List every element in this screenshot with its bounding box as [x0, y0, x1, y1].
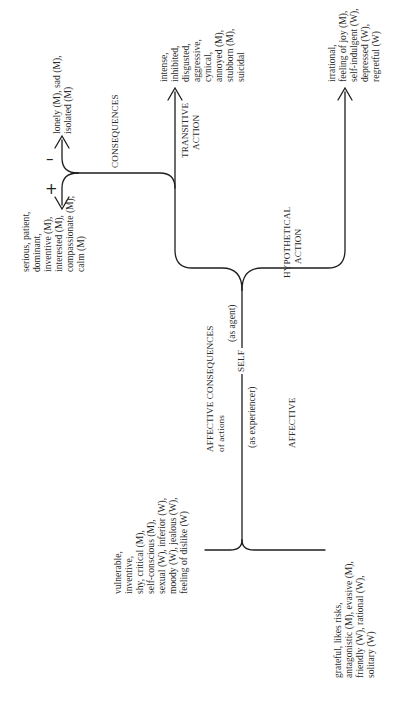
label-text: ACTION: [191, 103, 202, 158]
trait-line: moody (W), jealous (W),: [167, 497, 178, 594]
label-text: ACTION: [293, 207, 304, 278]
trait-line: regretful (W): [370, 8, 381, 82]
trait-line: self-conscious (M),: [145, 497, 156, 594]
trait-line: antagonistic (M), evasive (M),: [343, 561, 354, 678]
trait-line: grateful, likes risks,: [332, 561, 343, 678]
trait-line: annoyed (M),: [213, 29, 224, 82]
negative-sign: –: [46, 150, 54, 168]
trait-line: self-indulgent (W),: [348, 8, 359, 82]
trait-line: inhibited,: [169, 29, 180, 82]
trait-line: solitary (W): [365, 561, 376, 678]
hypothetical-traits: irrational, feeling of joy (M), self-ind…: [326, 8, 381, 82]
hypothetical-action-label: HYPOTHETICAL ACTION: [282, 207, 304, 278]
trait-line: calm (M): [75, 196, 86, 272]
label-text: (as agent): [226, 304, 237, 342]
trait-line: depressed (W),: [359, 8, 370, 82]
trait-line: lonely (M), sad (M),: [51, 55, 62, 134]
transitive-action-label: TRANSITIVE ACTION: [180, 103, 202, 158]
self-root-label: SELF: [236, 348, 247, 374]
negative-traits: lonely (M), sad (M), isolated (M): [51, 55, 73, 134]
branch-affective-consequences: [205, 540, 242, 550]
trait-line: feeling of joy (M),: [337, 8, 348, 82]
label-text: (as experiencer): [246, 386, 257, 448]
as-agent-label: (as agent): [226, 304, 237, 342]
affective-traits: grateful, likes risks, antagonistic (M),…: [332, 561, 376, 678]
positive-traits: serious, patient, dominant, inventive (M…: [20, 196, 86, 272]
trait-line: serious, patient,: [20, 196, 31, 272]
consequences-label: CONSEQUENCES: [110, 94, 121, 168]
affective-consequences-label: AFFECTIVE CONSEQUENCES of actions: [205, 326, 227, 453]
branch-affective: [242, 540, 325, 550]
trait-line: shy, critical (M),: [134, 497, 145, 594]
branch-consequences: [78, 173, 175, 188]
label-text: of actions: [216, 326, 227, 453]
trait-line: sexual (W), inferior (W),: [156, 497, 167, 594]
trait-line: intense,: [158, 29, 169, 82]
label-text: SELF: [236, 350, 247, 372]
transitive-traits: intense, inhibited, disgusted, aggressiv…: [158, 29, 246, 82]
label-text: CONSEQUENCES: [110, 94, 121, 168]
trait-line: compassionate (M),: [64, 196, 75, 272]
trait-line: suicidal: [235, 29, 246, 82]
label-text: HYPOTHETICAL: [282, 207, 293, 278]
trait-line: inventive,: [123, 497, 134, 594]
trait-line: vulnerable,: [112, 497, 123, 594]
trait-line: inventive (M),: [42, 196, 53, 272]
label-text: AFFECTIVE CONSEQUENCES: [205, 326, 216, 453]
trait-line: stubborn (M),: [224, 29, 235, 82]
trait-line: aggressive,: [191, 29, 202, 82]
as-experiencer-label: (as experiencer): [246, 386, 257, 448]
trait-line: interested (M),: [53, 196, 64, 272]
trait-line: cynical,: [202, 29, 213, 82]
trait-line: disgusted,: [180, 29, 191, 82]
trait-line: dominant,: [31, 196, 42, 272]
trait-line: irrational,: [326, 8, 337, 82]
fork-negative: [62, 140, 78, 173]
trait-line: friendly (W), rational (W),: [354, 561, 365, 678]
label-text: AFFECTIVE: [287, 398, 298, 448]
trait-line: isolated (M): [62, 55, 73, 134]
trait-line: feeling of dislike (W): [178, 497, 189, 594]
affective-label: AFFECTIVE: [287, 398, 298, 448]
affective-consequences-traits: vulnerable, inventive, shy, critical (M)…: [112, 497, 189, 594]
label-text: TRANSITIVE: [180, 103, 191, 158]
